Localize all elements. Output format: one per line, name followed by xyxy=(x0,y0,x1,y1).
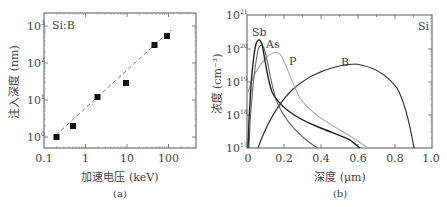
y-axis-label-b: 浓度 (cm⁻³) xyxy=(210,54,224,115)
y-tick-label: 100 xyxy=(27,130,45,144)
x-tick-labels-b: 0 0.2 0.4 0.6 0.8 1.0 xyxy=(245,152,440,165)
plot-frame-b xyxy=(247,15,432,148)
data-markers-a xyxy=(54,33,171,140)
svg-text:0.6: 0.6 xyxy=(349,152,367,165)
svg-text:0.2: 0.2 xyxy=(275,152,293,165)
svg-text:10: 10 xyxy=(120,152,134,165)
label-b: B xyxy=(341,56,349,69)
y-tick-labels-a: 100 101 102 103 xyxy=(27,19,45,144)
figure: Si:B 100 101 102 103 0.1 1 10 100 加速电压 (… xyxy=(0,0,447,207)
svg-text:100: 100 xyxy=(158,152,179,165)
plot-frame-a xyxy=(44,13,196,148)
svg-text:1: 1 xyxy=(82,152,89,165)
caption-a: (a) xyxy=(113,188,127,199)
caption-b: (b) xyxy=(333,188,347,199)
y-tick-label: 1021 xyxy=(226,8,248,22)
series-labels-b: Sb As P B Si xyxy=(252,20,430,69)
svg-text:1.0: 1.0 xyxy=(422,152,440,165)
annotation-si-b: Si:B xyxy=(52,19,75,32)
label-p: P xyxy=(289,55,297,68)
y-tick-label: 1020 xyxy=(226,42,248,56)
y-axis-label-a: 注入深度 (nm) xyxy=(7,45,21,119)
y-tick-labels-b: 1017 1018 1019 1020 1021 xyxy=(226,8,248,155)
x-axis-label-a: 加速电压 (keV) xyxy=(81,171,158,184)
x-tick-labels-a: 0.1 1 10 100 xyxy=(35,152,179,165)
y-tick-label: 1019 xyxy=(226,75,248,89)
panel-a: Si:B 100 101 102 103 0.1 1 10 100 加速电压 (… xyxy=(7,13,196,199)
panel-b: Sb As P B Si 1017 1018 1019 1020 1021 0 … xyxy=(210,8,440,199)
x-axis-label-b: 深度 (μm) xyxy=(314,170,366,184)
label-as: As xyxy=(265,38,280,51)
svg-text:0.4: 0.4 xyxy=(312,152,330,165)
curve-b xyxy=(258,64,414,148)
annotation-si: Si xyxy=(418,20,430,33)
y-tick-label: 103 xyxy=(27,19,45,33)
y-ticks-a xyxy=(44,26,196,137)
y-tick-label: 101 xyxy=(27,93,45,107)
svg-text:0: 0 xyxy=(245,152,252,165)
svg-text:0.1: 0.1 xyxy=(35,152,53,165)
y-tick-label: 1018 xyxy=(226,108,248,122)
y-tick-label: 102 xyxy=(27,56,45,70)
label-sb: Sb xyxy=(252,26,267,39)
svg-text:0.8: 0.8 xyxy=(386,152,404,165)
